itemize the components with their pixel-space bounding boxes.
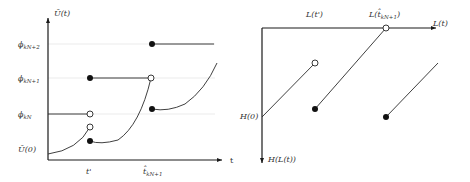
- curve-segment-1: [48, 127, 90, 154]
- origin-label: H(0): [239, 112, 258, 121]
- x-tick-t-prime: t': [86, 167, 91, 176]
- top-label-L-t-hat: L(t̂kN+1): [368, 8, 400, 20]
- segment-1: [262, 63, 315, 117]
- curve-segment-3: [152, 63, 217, 110]
- left-diagram: Ū(t) t ϕkN+2 ϕkN+1 ϕkN Ū(0) t' t̂kN+1: [18, 9, 234, 177]
- y-tick-phi-kN: ϕkN: [18, 110, 32, 120]
- filled-dot: [383, 114, 389, 120]
- segment-3: [386, 63, 438, 117]
- y-tick-U0: Ū(0): [18, 145, 36, 154]
- open-dot: [87, 124, 93, 130]
- x-axis-label: L(t): [432, 19, 448, 28]
- filled-dot: [149, 106, 155, 112]
- open-dot: [383, 25, 389, 31]
- x-tick-t-hat: t̂kN+1: [143, 165, 163, 177]
- y-tick-phi-kN2: ϕkN+2: [18, 40, 40, 50]
- segment-2: [315, 28, 386, 109]
- filled-dot: [149, 41, 155, 47]
- top-label-L-t-prime: L(t'): [305, 10, 323, 19]
- y-axis-label: H(L(t)): [267, 155, 296, 164]
- filled-dot: [87, 138, 93, 144]
- right-diagram: L(t') L(t̂kN+1) L(t) H(0) H(L(t)): [239, 8, 448, 164]
- curve-segment-2: [90, 78, 151, 143]
- open-dot: [312, 60, 318, 66]
- filled-dot: [312, 106, 318, 112]
- y-tick-phi-kN1: ϕkN+1: [18, 74, 40, 84]
- x-axis-label: t: [230, 156, 234, 165]
- filled-dot: [87, 75, 93, 81]
- open-dot: [87, 111, 93, 117]
- open-dot: [148, 75, 154, 81]
- y-axis-label: Ū(t): [54, 9, 70, 18]
- diagram-canvas: Ū(t) t ϕkN+2 ϕkN+1 ϕkN Ū(0) t' t̂kN+1: [0, 0, 470, 182]
